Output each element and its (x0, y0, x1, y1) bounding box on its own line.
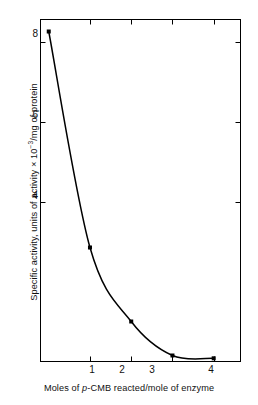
data-point-4 (212, 356, 216, 360)
data-point-3 (170, 354, 174, 358)
x-axis-title-post: -CMB reacted/mole of enzyme (87, 383, 214, 393)
data-point-0 (47, 30, 51, 34)
x-axis-title: Moles of p-CMB reacted/mole of enzyme (0, 383, 258, 393)
data-curve (49, 32, 214, 360)
data-point-markers (47, 30, 216, 361)
plot-area (0, 0, 258, 405)
axis-frame (41, 20, 241, 362)
data-point-1 (88, 246, 92, 250)
tick-marks (41, 20, 241, 362)
figure-container: Specific activity, units of activity × 1… (0, 0, 258, 405)
data-point-2 (129, 320, 133, 324)
x-axis-title-pre: Moles of (44, 383, 82, 393)
